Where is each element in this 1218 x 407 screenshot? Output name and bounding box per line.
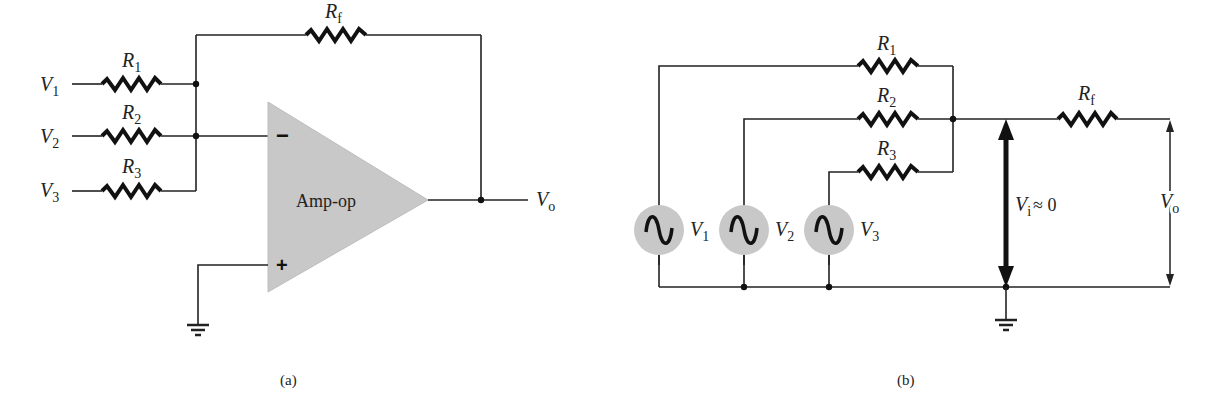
resistor-rf (1058, 113, 1117, 125)
ground-icon (995, 320, 1017, 330)
junction-dot (826, 284, 832, 290)
ac-source-v1: V1 (634, 205, 709, 255)
r1-label: R1 (121, 49, 141, 75)
junction-dot (741, 284, 747, 290)
ground-icon (187, 325, 209, 335)
v1-label: V1 (690, 218, 709, 244)
input-branch-1: V1 R1 (40, 49, 196, 99)
vi-double-arrow (998, 119, 1014, 287)
rf-label: Rf (1077, 82, 1095, 108)
vo-label: Vo (536, 188, 555, 214)
junction-dot (193, 133, 199, 139)
r3-label: R3 (876, 137, 896, 163)
v1-label: V1 (40, 73, 59, 99)
v3-label: V3 (860, 218, 879, 244)
junction-dot (478, 197, 484, 203)
v2-label: V2 (775, 218, 794, 244)
caption-b: (b) (897, 372, 915, 389)
figure-a: V1 R1 V2 R2 V3 R3 (40, 0, 555, 389)
r2-label: R2 (876, 84, 896, 110)
resistor-r1 (102, 78, 161, 90)
input-branch-2: V2 R2 (40, 101, 270, 151)
r3-label: R3 (121, 155, 141, 181)
op-amp: − + Amp-op (268, 102, 428, 292)
ac-source-v2: V2 (719, 205, 794, 255)
resistor-rf (306, 29, 366, 41)
ac-source-v3: V3 (804, 205, 879, 255)
resistor-r3 (102, 185, 161, 197)
input-branch-3: V3 R3 (40, 155, 196, 205)
r2-label: R2 (121, 101, 141, 127)
rf-label: Rf (324, 0, 342, 26)
resistor-r2 (858, 113, 918, 125)
v3-label: V3 (40, 179, 59, 205)
caption-a: (a) (280, 372, 297, 389)
junction-dot (193, 81, 199, 87)
inverting-input-sign: − (276, 123, 289, 148)
resistor-r1 (858, 60, 918, 72)
summing-amplifier-diagram: V1 R1 V2 R2 V3 R3 (0, 0, 1218, 407)
v2-label: V2 (40, 125, 59, 151)
r1-label: R1 (876, 32, 896, 58)
noninverting-input-sign: + (276, 254, 288, 276)
resistor-r3 (858, 166, 918, 178)
figure-b: R1 R2 R3 Rf V1 V2 V3 (634, 32, 1179, 389)
vi-label: Vi≈ 0 (1015, 193, 1057, 219)
opamp-label: Amp-op (296, 191, 356, 211)
junction-dot (950, 116, 956, 122)
resistor-r2 (102, 130, 161, 142)
